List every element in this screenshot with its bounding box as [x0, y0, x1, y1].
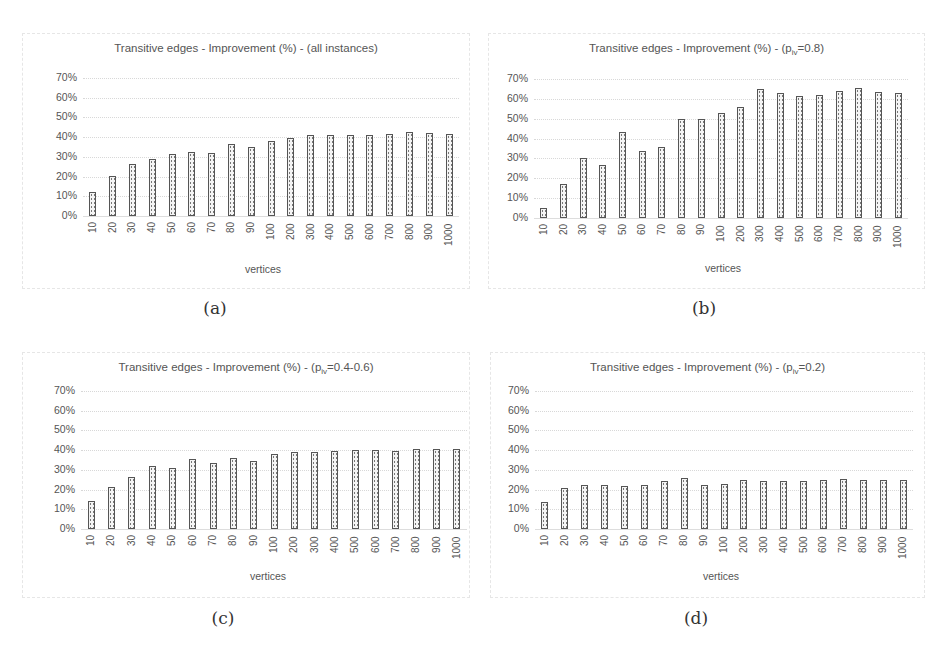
y-tick-label: 0% — [41, 522, 75, 534]
y-tick-label: 60% — [41, 404, 75, 416]
x-tick-label: 80 — [678, 535, 689, 546]
bar — [875, 92, 882, 218]
gridline — [535, 450, 913, 451]
bar — [800, 481, 807, 529]
bar — [601, 485, 608, 529]
x-tick-label: 600 — [364, 223, 375, 240]
bar — [149, 159, 156, 216]
x-tick-label: 20 — [107, 222, 118, 233]
y-tick-label: 0% — [494, 211, 528, 223]
y-tick-label: 0% — [43, 209, 77, 221]
chart-title-b: Transitive edges - Improvement (%) - (pi… — [489, 42, 924, 57]
caption-b: (b) — [674, 298, 734, 318]
bar — [737, 107, 744, 218]
x-tick-label: 900 — [877, 536, 888, 553]
bar — [855, 88, 862, 218]
x-axis-label: vertices — [693, 262, 753, 274]
bar — [149, 466, 156, 529]
bar — [661, 481, 668, 529]
x-axis-label: vertices — [233, 263, 293, 275]
gridline — [534, 99, 908, 100]
bar — [641, 485, 648, 529]
bar — [698, 119, 705, 218]
bar — [307, 135, 314, 216]
caption-c: (c) — [193, 608, 253, 628]
bar — [129, 164, 136, 216]
x-tick-label: 900 — [431, 536, 442, 553]
chart-title-d: Transitive edges - Improvement (%) - (pi… — [491, 361, 924, 376]
y-tick-label: 50% — [43, 110, 77, 122]
chart-panel-c: Transitive edges - Improvement (%) - (pi… — [22, 352, 470, 598]
y-tick-label: 10% — [41, 502, 75, 514]
x-tick-label: 800 — [410, 536, 421, 553]
bar — [189, 459, 196, 529]
x-tick-label: 60 — [636, 224, 647, 235]
bar — [701, 485, 708, 529]
x-tick-label: 500 — [344, 223, 355, 240]
y-tick-label: 50% — [494, 112, 528, 124]
x-tick-label: 90 — [698, 535, 709, 546]
bar — [347, 135, 354, 216]
bar — [128, 477, 135, 529]
y-tick-label: 10% — [43, 189, 77, 201]
bar — [230, 458, 237, 529]
gridline — [535, 430, 913, 431]
x-tick-label: 30 — [577, 224, 588, 235]
x-tick-label: 300 — [754, 225, 765, 242]
bar — [291, 452, 298, 529]
x-tick-label: 200 — [285, 223, 296, 240]
bar — [721, 484, 728, 529]
x-tick-label: 20 — [105, 535, 116, 546]
caption-a: (a) — [185, 298, 245, 318]
bar — [208, 153, 215, 216]
bar — [386, 134, 393, 216]
bar — [108, 487, 115, 529]
x-tick-label: 600 — [813, 225, 824, 242]
x-tick-label: 80 — [227, 535, 238, 546]
chart-title-c: Transitive edges - Improvement (%) - (pi… — [23, 361, 469, 376]
bar — [372, 450, 379, 529]
bar — [895, 93, 902, 218]
bar — [287, 138, 294, 216]
gridline — [81, 430, 467, 431]
x-tick-label: 60 — [638, 535, 649, 546]
y-tick-label: 30% — [43, 150, 77, 162]
bar — [560, 184, 567, 218]
chart-title-a: Transitive edges - Improvement (%) - (al… — [23, 42, 469, 57]
gridline — [83, 98, 459, 99]
x-tick-label: 500 — [349, 536, 360, 553]
x-tick-label: 700 — [833, 225, 844, 242]
x-tick-label: 500 — [794, 225, 805, 242]
x-tick-label: 90 — [245, 222, 256, 233]
x-tick-label: 800 — [853, 225, 864, 242]
x-tick-label: 10 — [87, 222, 98, 233]
x-tick-label: 400 — [329, 536, 340, 553]
bar — [718, 113, 725, 218]
bar — [248, 147, 255, 216]
bar — [271, 454, 278, 529]
plot-area: 0%10%20%30%40%50%60%70%10203040506070809… — [81, 391, 467, 529]
x-tick-label: 40 — [146, 222, 157, 233]
x-tick-label: 30 — [126, 222, 137, 233]
bar — [561, 488, 568, 529]
x-tick-label: 1000 — [443, 224, 454, 246]
gridline — [534, 79, 908, 80]
y-tick-label: 60% — [495, 404, 529, 416]
x-tick-label: 1000 — [892, 226, 903, 248]
bar — [426, 133, 433, 216]
y-tick-label: 40% — [41, 443, 75, 455]
bar — [352, 450, 359, 529]
x-axis-label: vertices — [691, 570, 751, 582]
x-tick-label: 300 — [758, 536, 769, 553]
x-tick-label: 20 — [558, 224, 569, 235]
x-tick-label: 100 — [715, 225, 726, 242]
y-tick-label: 20% — [494, 171, 528, 183]
gridline — [535, 529, 913, 530]
y-tick-label: 70% — [41, 384, 75, 396]
x-tick-label: 70 — [658, 535, 669, 546]
bar — [681, 478, 688, 529]
bar — [860, 480, 867, 529]
gridline — [81, 411, 467, 412]
x-tick-label: 600 — [817, 536, 828, 553]
bar — [210, 463, 217, 529]
